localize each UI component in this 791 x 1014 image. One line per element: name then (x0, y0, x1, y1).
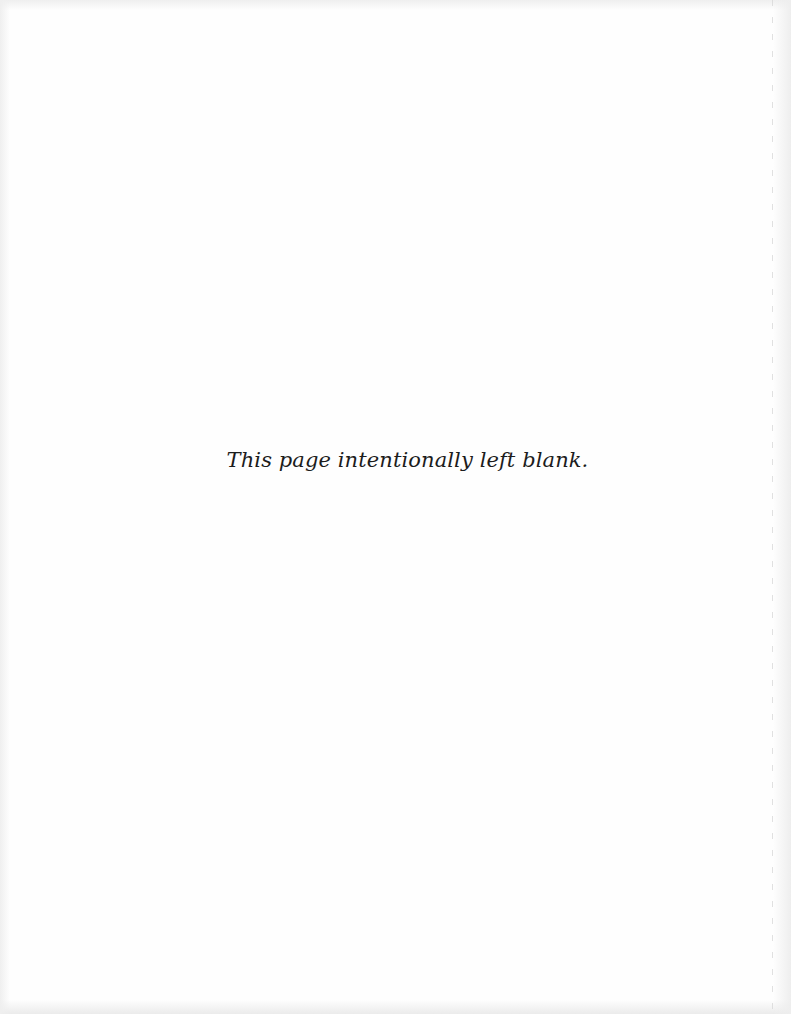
scan-shadow-left (0, 0, 10, 1014)
blank-page-notice: This page intentionally left blank. (0, 448, 791, 472)
scan-shadow-bottom (0, 1000, 791, 1014)
scan-shadow-top (0, 0, 791, 10)
document-page: This page intentionally left blank. (0, 0, 791, 1014)
dashed-margin-line (772, 0, 773, 1014)
scan-shadow-right (773, 0, 791, 1014)
